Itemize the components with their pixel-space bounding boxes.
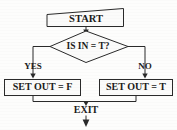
set-out-true-label: SET OUT = T — [106, 81, 166, 92]
flowchart-svg: START IS IN = T? YES NO SET OUT = F — [0, 0, 177, 130]
flowchart-canvas: START IS IN = T? YES NO SET OUT = F — [0, 0, 177, 130]
set-out-false-label: SET OUT = F — [13, 81, 73, 92]
arrowhead-down-into-sett — [142, 73, 147, 78]
edge-label-yes: YES — [24, 61, 42, 71]
node-start[interactable]: START — [47, 9, 124, 27]
start-label: START — [69, 13, 103, 24]
edge-label-no: NO — [138, 61, 152, 71]
node-set-out-true[interactable]: SET OUT = T — [100, 80, 173, 96]
exit-label: EXIT — [74, 104, 99, 115]
node-exit[interactable]: EXIT — [74, 104, 99, 115]
arrowhead-down-into-setf — [30, 73, 35, 78]
node-set-out-false[interactable]: SET OUT = F — [5, 80, 81, 96]
edge-decision-yes: YES — [24, 47, 50, 79]
edge-exit-out — [83, 116, 90, 128]
edge-line-merge — [33, 96, 136, 102]
decision-label: IS IN = T? — [67, 41, 110, 51]
node-decision[interactable]: IS IN = T? — [50, 31, 128, 63]
edge-decision-no: NO — [128, 47, 152, 79]
arrowhead-exit-out — [83, 120, 90, 128]
